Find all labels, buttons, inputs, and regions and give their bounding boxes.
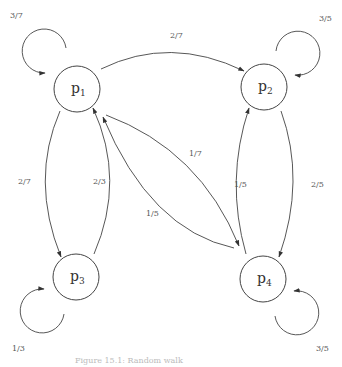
edge-label-p4-self: 3/5 [316, 344, 329, 353]
edge-label-p1-self: 3/7 [10, 11, 23, 20]
edge-p1-to-p2 [101, 52, 244, 71]
edge-p3-self-loop [20, 289, 64, 333]
edge-label-p1-p2: 2/7 [170, 31, 183, 40]
edge-label-p4-p2: 1/5 [234, 180, 247, 189]
node-p1: p1 [54, 66, 100, 112]
node-p4: p4 [240, 256, 286, 302]
edge-p4-to-p1 [103, 117, 234, 248]
edge-p2-self-loop [276, 31, 320, 75]
node-p4-label: p [257, 270, 266, 286]
edge-label-p3-self: 1/3 [12, 344, 25, 353]
node-p3-label: p [70, 268, 79, 284]
edge-label-p2-self: 3/5 [319, 14, 332, 23]
edge-p1-self-loop [22, 29, 66, 73]
edge-label-p2-p4: 2/5 [311, 180, 324, 189]
node-p2: p2 [241, 64, 287, 110]
edge-label-p1-p3: 2/7 [18, 177, 31, 186]
edge-p2-to-p4 [279, 111, 293, 257]
node-p2-label: p [258, 78, 267, 94]
figure-caption: Figure 15.1: Random walk [75, 356, 183, 365]
edge-p4-self-loop [275, 291, 319, 335]
markov-chain-diagram: 3/7 2/7 3/5 2/7 2/3 1/7 1/5 1/5 2/5 1/3 … [0, 0, 342, 367]
edge-p1-to-p4 [106, 115, 239, 246]
edge-p1-to-p3 [45, 111, 61, 257]
edge-label-p1-p4: 1/7 [189, 149, 202, 158]
edge-label-p3-p1: 2/3 [93, 177, 106, 186]
edge-label-p4-p1: 1/5 [146, 209, 159, 218]
node-p3: p3 [53, 254, 99, 300]
node-p1-label: p [71, 80, 80, 96]
